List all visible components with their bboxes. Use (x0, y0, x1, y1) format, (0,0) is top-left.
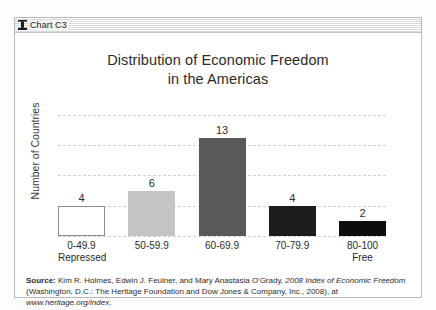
x-tick-sublabel: Repressed (58, 252, 105, 264)
x-axis-baseline (58, 236, 386, 237)
bar-value-label: 6 (128, 177, 175, 189)
bar[interactable] (339, 221, 386, 236)
x-tick-range: 0-49.9 (67, 240, 95, 251)
bar-slot: 6 (128, 115, 175, 236)
x-axis-tick-labels: 0-49.9 Repressed 50-59.9 60-69.9 70-79.9 (58, 240, 386, 264)
scanned-page: Chart C3 Distribution of Economic Freedo… (0, 0, 436, 310)
bar-value-label: 2 (339, 207, 386, 219)
source-note: Source: Kim R. Holmes, Edwin J. Feulner,… (26, 275, 412, 309)
chart-body: Distribution of Economic Freedom in the … (15, 33, 421, 299)
x-tick-sublabel: Free (339, 252, 386, 264)
bar[interactable] (58, 206, 105, 236)
plot-wrapper: Number of Countries 4 6 (15, 33, 423, 299)
x-tick-range: 50-59.9 (135, 240, 169, 251)
window-title-label: Chart C3 (30, 20, 69, 31)
source-line1-text: Kim R. Holmes, Edwin J. Feulner, and Mar… (56, 276, 285, 285)
chart-window: Chart C3 Distribution of Economic Freedo… (14, 17, 422, 298)
x-tick-label: 0-49.9 Repressed (58, 240, 105, 264)
source-line1-italic: 2008 Index of Economic (285, 276, 371, 285)
source-label: Source: (26, 276, 56, 285)
source-url[interactable]: www.heritage.org/index. (26, 298, 111, 307)
x-tick-range: 70-79.9 (275, 240, 309, 251)
bar[interactable] (199, 138, 246, 236)
x-tick-label: 60-69.9 (199, 240, 246, 264)
bar-series: 4 6 13 4 (58, 115, 386, 236)
x-tick-label: 80-100 Free (339, 240, 386, 264)
source-line2-text: (Washington, D.C.: The Heritage Foundati… (26, 287, 338, 296)
bar-value-label: 4 (269, 192, 316, 204)
bar[interactable] (128, 191, 175, 236)
bar-slot: 2 (339, 115, 386, 236)
bar-slot: 4 (269, 115, 316, 236)
source-line2-italic: Freedom (373, 276, 405, 285)
bar-slot: 4 (58, 115, 105, 236)
x-tick-label: 70-79.9 (269, 240, 316, 264)
chart-window-icon (18, 20, 27, 30)
bar-value-label: 4 (58, 192, 105, 204)
x-tick-range: 80-100 (347, 240, 378, 251)
y-axis-label: Number of Countries (29, 86, 41, 216)
x-tick-label: 50-59.9 (128, 240, 175, 264)
plot-area: 4 6 13 4 (58, 115, 386, 236)
bar-value-label: 13 (199, 124, 246, 136)
window-titlebar[interactable]: Chart C3 (15, 18, 421, 33)
bar[interactable] (269, 206, 316, 236)
x-tick-range: 60-69.9 (205, 240, 239, 251)
bar-slot: 13 (199, 115, 246, 236)
